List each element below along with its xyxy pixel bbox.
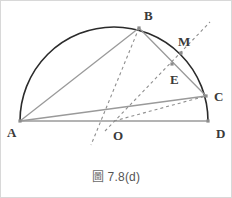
point-marker-c — [204, 94, 207, 97]
point-label-e: E — [170, 73, 179, 86]
figure-caption: 圖 7.8(d) — [1, 167, 231, 184]
point-label-c: C — [214, 90, 223, 103]
dashed-line-O-C — [114, 96, 206, 121]
point-label-m: M — [178, 35, 190, 48]
point-marker-a — [18, 119, 21, 122]
point-marker-e — [170, 62, 173, 65]
figure-card: ABCDEMO 圖 7.8(d) — [0, 0, 232, 198]
point-marker-m — [179, 51, 182, 54]
point-label-a: A — [7, 126, 16, 139]
point-marker-b — [137, 26, 140, 29]
point-label-d: D — [216, 127, 225, 140]
point-marker-d — [206, 119, 209, 122]
caption-text: 7.8(d) — [108, 170, 141, 184]
point-label-b: B — [144, 9, 153, 22]
caption-cjk-prefix: 圖 — [92, 170, 104, 184]
point-label-o: O — [113, 129, 123, 142]
